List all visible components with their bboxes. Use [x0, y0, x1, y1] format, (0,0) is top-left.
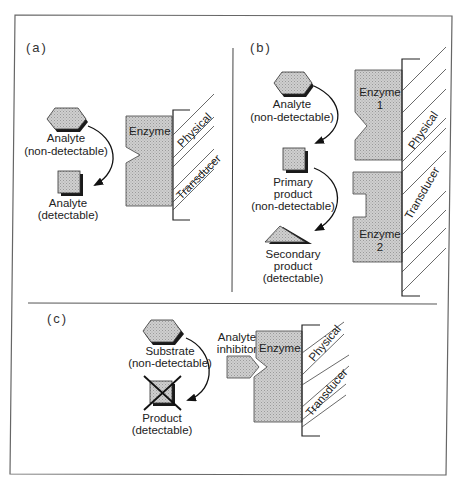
physical-label: Physical: [406, 109, 440, 151]
analyte-d-sublabel: (detectable): [38, 209, 99, 221]
physical-label: Physical: [306, 323, 343, 364]
secondary-label-2: product: [274, 260, 313, 272]
curved-arrow-icon: [314, 168, 338, 230]
analyte-nd-label: Analyte: [47, 132, 85, 144]
transducer-label: Transducer: [174, 152, 223, 201]
physical-label: Physical: [175, 111, 214, 150]
product-label: Product: [142, 412, 182, 424]
panel-c: (c) Substrate (non-detectable) Product (…: [47, 311, 350, 436]
panel-a: (a) Analyte (non-detectable) Analyte (de…: [24, 40, 223, 221]
horizontal-divider: [28, 303, 437, 304]
inhibitor-shape: [227, 356, 259, 378]
inhibitor-label: Analyte: [218, 331, 256, 343]
square-primary-icon: [283, 148, 305, 170]
panel-b-label: (b): [250, 40, 272, 55]
analyte-label: Analyte: [273, 98, 311, 110]
enzyme-1-label: Enzyme: [359, 86, 401, 98]
hatch-lines: [402, 47, 446, 292]
enzyme-1-number: 1: [377, 99, 383, 111]
square-analyte-icon: [58, 171, 80, 193]
biosensor-diagram: (a) Analyte (non-detectable) Analyte (de…: [0, 0, 458, 487]
enzyme-label: Enzyme: [259, 342, 301, 354]
analyte-nd-sublabel: (non-detectable): [24, 145, 108, 157]
hexagon-analyte-icon: [47, 108, 86, 129]
vertical-divider: [232, 48, 233, 292]
substrate-sublabel: (non-detectable): [128, 357, 212, 369]
inhibitor-sublabel: inhibitor: [217, 343, 257, 355]
secondary-sublabel: (detectable): [263, 272, 324, 284]
primary-label: Primary: [273, 176, 313, 188]
enzyme-2-number: 2: [377, 241, 383, 253]
hexagon-analyte-icon: [274, 72, 312, 94]
panel-b: (b) Analyte (non-detectable) Primary pro…: [250, 16, 448, 300]
enzyme-label: Enzyme: [129, 125, 171, 137]
transducer-bracket: [402, 59, 420, 296]
transducer-right-edge: [447, 16, 448, 300]
hexagon-substrate-icon: [143, 320, 181, 342]
panel-a-label: (a): [26, 40, 48, 55]
primary-label-2: product: [274, 188, 313, 200]
primary-sublabel: (non-detectable): [251, 200, 335, 212]
secondary-label: Secondary: [266, 248, 321, 260]
analyte-d-label: Analyte: [49, 197, 87, 209]
substrate-label: Substrate: [145, 345, 194, 357]
enzyme-2-label: Enzyme: [359, 228, 401, 240]
enzyme-1-shape: [355, 70, 402, 160]
transducer-label: Transducer: [303, 366, 349, 418]
transducer-label: Transducer: [402, 165, 441, 221]
product-sublabel: (detectable): [132, 424, 193, 436]
analyte-sublabel: (non-detectable): [250, 111, 334, 123]
panel-c-label: (c): [47, 311, 68, 326]
